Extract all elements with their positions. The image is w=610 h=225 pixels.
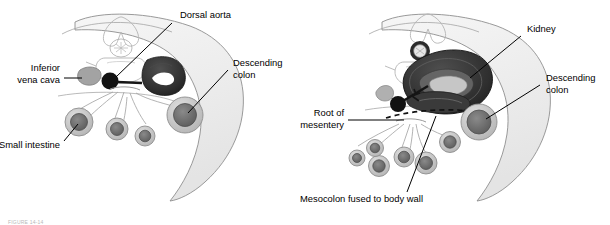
descending-colon-right [461,104,497,140]
anatomical-figure: Dorsal aorta Inferior vena cava Descendi… [0,0,610,225]
label-inferior-vena-cava-line2: vena cava [17,74,61,85]
label-small-intestine: Small intestine [0,139,60,150]
intestine-loop [394,147,414,167]
intestine-loop [367,140,384,157]
label-descending-colon-left-line2: colon [233,69,255,80]
intestine-loop [369,156,390,177]
intestine-loop [349,150,365,166]
intestine-loop [440,132,461,153]
label-descending-colon-right-line2: colon [546,84,568,95]
figure-canvas: Dorsal aorta Inferior vena cava Descendi… [0,0,610,225]
label-descending-colon-right-line1: Descending [546,72,596,83]
label-descending-colon-left-line1: Descending [233,57,283,68]
label-kidney: Kidney [527,23,556,34]
label-inferior-vena-cava-line1: Inferior [31,62,60,73]
inferior-vena-cava-vessel [78,67,101,85]
label-root-of-mesentery-line1: Root of [314,107,345,118]
intestine-loop [106,118,128,140]
figure-caption: FIGURE 14-14 [8,219,43,225]
kidney-left-panel [142,57,185,96]
label-dorsal-aorta: Dorsal aorta [180,9,232,20]
intestine-loop [65,108,93,136]
dorsal-aorta-vessel [390,96,406,112]
label-root-of-mesentery-line2: mesentery [300,119,344,130]
intestine-loop [135,126,155,146]
label-mesocolon-fused: Mesocolon fused to body wall [300,193,423,204]
renal-vessel-stalk [117,82,142,83]
